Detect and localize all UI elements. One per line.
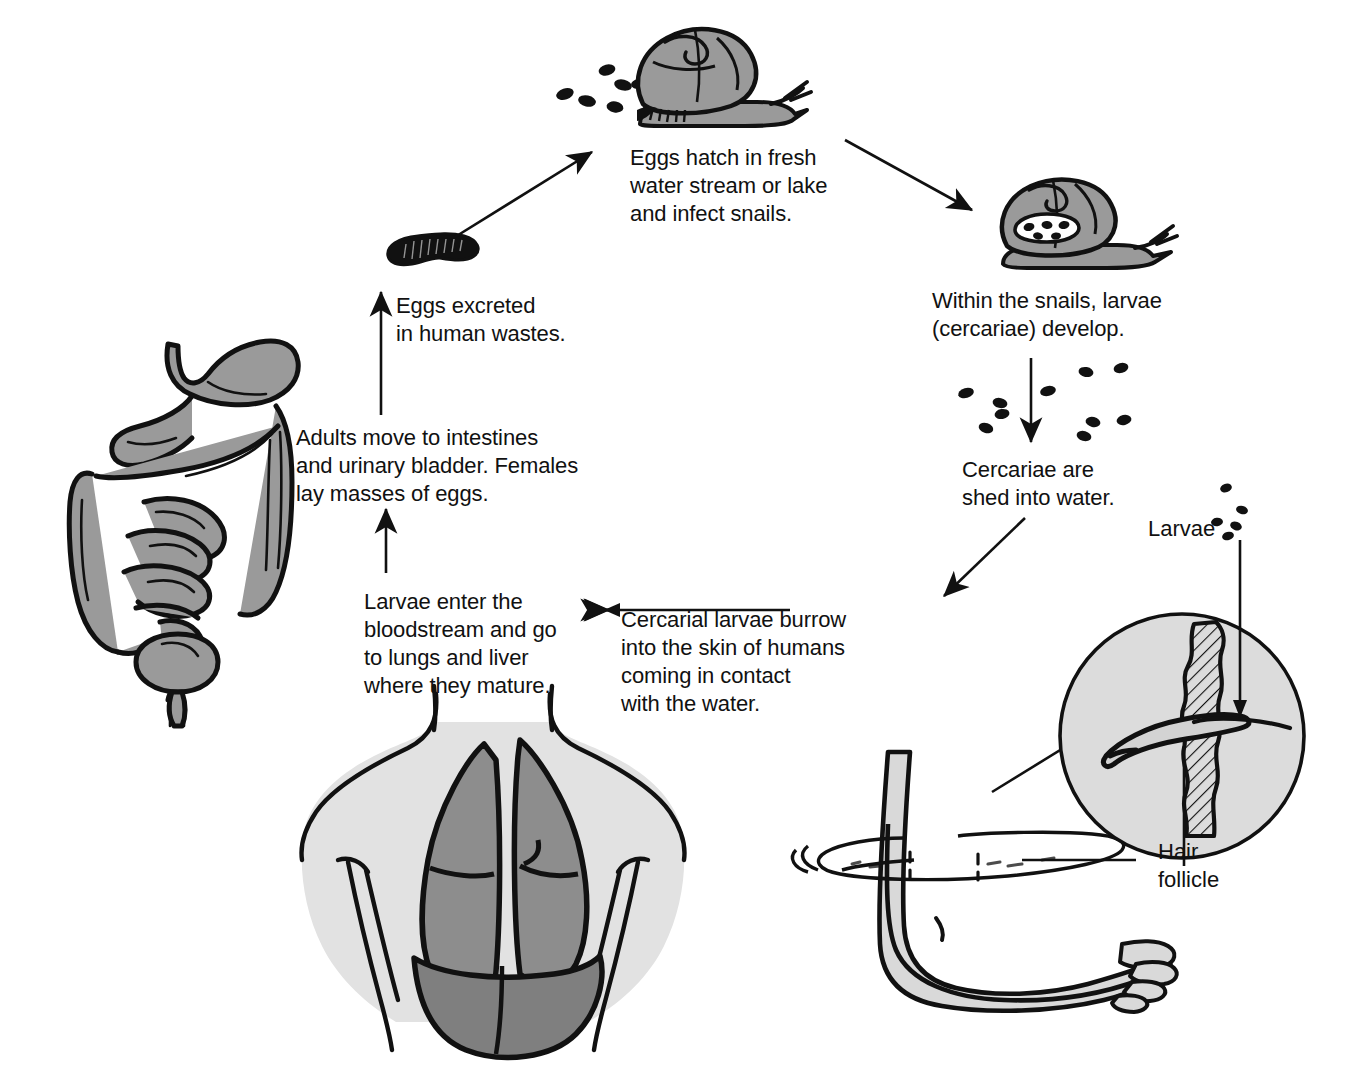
caption-within-snails: Within the snails, larvae (cercariae) de… bbox=[932, 287, 1232, 343]
caption-eggs-hatch: Eggs hatch in fresh water stream or lake… bbox=[630, 144, 890, 228]
snail-with-eggs-illustration bbox=[545, 22, 845, 142]
egg-mass-illustration bbox=[378, 228, 488, 278]
hair-follicle-label: Hair follicle bbox=[1158, 838, 1219, 894]
caption-cercariae-shed: Cercariae are shed into water. bbox=[962, 456, 1202, 512]
larvae-dots-cluster bbox=[1206, 478, 1266, 548]
infected-snail-illustration bbox=[985, 178, 1215, 288]
caption-eggs-excreted: Eggs excreted in human wastes. bbox=[396, 292, 636, 348]
caption-adults-move: Adults move to intestines and urinary bl… bbox=[296, 424, 616, 508]
digestive-system-illustration bbox=[32, 322, 332, 742]
torso-lungs-liver-illustration bbox=[288, 678, 698, 1078]
cercariae-dots-cluster bbox=[930, 358, 1130, 468]
life-cycle-diagram: Eggs hatch in fresh water stream or lake… bbox=[0, 0, 1345, 1082]
arrow-eggs-to-snail bbox=[455, 152, 592, 237]
magnified-skin-hair-follicle-inset bbox=[1044, 596, 1324, 876]
arrow-cercariae-to-skin bbox=[944, 518, 1025, 596]
